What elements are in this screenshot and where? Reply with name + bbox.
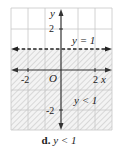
x-axis-label: x (100, 73, 106, 85)
origin-label: O (49, 72, 57, 84)
x-tick-label-neg2: -2 (21, 74, 29, 85)
y-tick-label-2: 2 (49, 23, 54, 34)
caption-text: y < 1 (53, 134, 76, 146)
caption-letter: d. (42, 134, 51, 146)
y-tick-label-neg2: -2 (46, 105, 54, 116)
region-label: y < 1 (73, 94, 97, 106)
figure-caption: d. y < 1 (0, 134, 118, 146)
x-tick-label-2: 2 (93, 74, 98, 85)
boundary-label: y = 1 (71, 34, 95, 46)
y-axis-label: y (49, 7, 55, 19)
coordinate-graph: y 2 y = 1 -2 O 2 x y < 1 -2 (0, 0, 118, 134)
